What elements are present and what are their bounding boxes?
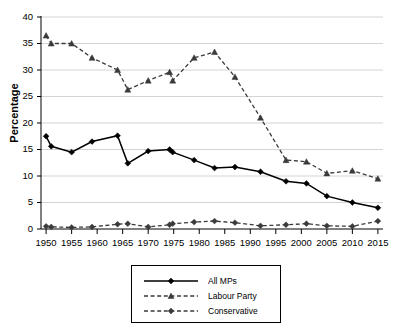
data-marker — [258, 223, 264, 229]
data-marker — [170, 78, 176, 84]
chart-legend: All MPsLabour PartyConservative — [131, 265, 281, 323]
y-tick-label: 15 — [9, 143, 33, 154]
x-tick-label: 2015 — [363, 237, 393, 248]
data-marker — [212, 165, 218, 171]
data-marker — [191, 219, 197, 225]
y-tick-label: 40 — [9, 11, 33, 22]
data-marker — [375, 205, 381, 211]
legend-item-label: All MPs — [208, 276, 237, 286]
data-marker — [232, 164, 238, 170]
y-tick-label: 0 — [9, 223, 33, 234]
data-marker — [232, 220, 238, 226]
data-marker — [115, 221, 121, 227]
data-marker — [257, 115, 263, 121]
data-marker — [168, 308, 174, 314]
series-conservative — [43, 218, 381, 230]
data-marker — [43, 223, 49, 229]
data-marker — [168, 278, 174, 284]
data-marker — [89, 139, 95, 145]
data-marker — [89, 55, 95, 61]
data-marker — [375, 218, 381, 224]
y-tick-label: 20 — [9, 117, 33, 128]
y-tick-label: 25 — [9, 90, 33, 101]
data-marker — [324, 170, 330, 176]
data-marker — [43, 133, 49, 139]
data-marker — [191, 157, 197, 163]
data-marker — [48, 143, 54, 149]
data-marker — [115, 133, 121, 139]
legend-item-label: Labour Party — [208, 291, 257, 301]
data-marker — [145, 78, 151, 84]
data-marker — [324, 223, 330, 229]
data-marker — [349, 223, 355, 229]
y-tick-label: 5 — [9, 196, 33, 207]
data-marker — [304, 221, 310, 227]
legend-symbols — [132, 266, 282, 324]
data-marker — [283, 178, 289, 184]
series-line — [46, 36, 378, 179]
y-tick-label: 35 — [9, 37, 33, 48]
data-marker — [212, 49, 218, 55]
y-tick-label: 30 — [9, 64, 33, 75]
data-marker — [69, 149, 75, 155]
series-all-mps — [43, 133, 381, 211]
data-marker — [283, 222, 289, 228]
chart-figure: Percentage 0510152025303540 195019551960… — [0, 0, 398, 329]
legend-item-label: Conservative — [208, 306, 258, 316]
data-marker — [43, 33, 49, 39]
data-marker — [349, 200, 355, 206]
series-labour-party — [43, 33, 381, 182]
y-tick-label: 10 — [9, 170, 33, 181]
data-marker — [258, 169, 264, 175]
data-marker — [125, 221, 131, 227]
data-marker — [212, 218, 218, 224]
